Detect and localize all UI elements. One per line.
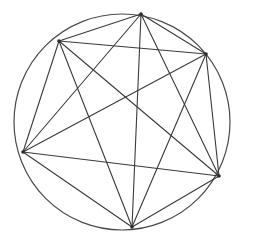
figure-canvas bbox=[0, 0, 254, 243]
chord-v0-v5 bbox=[59, 14, 141, 41]
chord-layer bbox=[23, 14, 219, 227]
chord-v3-v5 bbox=[59, 41, 132, 227]
vertex-right bbox=[217, 174, 221, 178]
chord-v1-v5 bbox=[59, 41, 206, 54]
geometry-diagram bbox=[0, 0, 254, 243]
vertex-left bbox=[21, 150, 25, 154]
chord-v0-v4 bbox=[23, 14, 141, 152]
vertex-bottom bbox=[130, 225, 134, 229]
chord-v2-v3 bbox=[132, 176, 219, 227]
vertex-upper-left bbox=[57, 39, 61, 43]
vertex-top bbox=[139, 12, 143, 16]
vertex-upper-right bbox=[204, 52, 208, 56]
chord-v0-v3 bbox=[132, 14, 141, 227]
chord-v1-v2 bbox=[206, 54, 219, 176]
